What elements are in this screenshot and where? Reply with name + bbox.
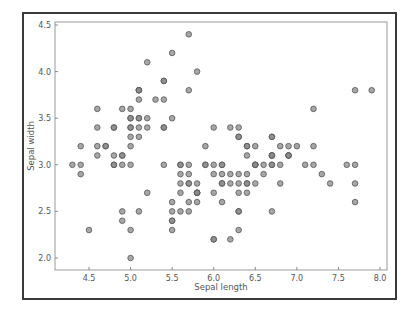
data-point [194, 69, 200, 75]
data-point [178, 190, 184, 196]
data-point [211, 162, 217, 168]
data-point [236, 125, 242, 131]
x-tick-label: 5.5 [166, 274, 179, 283]
data-point [136, 209, 142, 215]
data-point [95, 143, 101, 149]
data-point [369, 87, 375, 93]
data-point [252, 143, 258, 149]
data-point [178, 181, 184, 187]
data-point [277, 143, 283, 149]
data-point [269, 209, 275, 215]
data-point [228, 171, 234, 177]
data-point [186, 171, 192, 177]
data-point [161, 125, 167, 131]
data-point [236, 209, 242, 215]
data-point [311, 162, 317, 168]
data-point [136, 87, 142, 93]
data-point [269, 153, 275, 159]
data-point [136, 97, 142, 103]
data-point [128, 227, 134, 233]
data-point [277, 181, 283, 187]
data-point [144, 190, 150, 196]
y-tick-label: 4.5 [38, 21, 51, 30]
x-tick-label: 6.5 [249, 274, 262, 283]
data-point [352, 181, 358, 187]
data-point [78, 171, 84, 177]
scatter-chart: 4.55.05.56.06.57.07.58.0 2.02.53.03.54.0… [0, 0, 413, 316]
data-point [228, 237, 234, 243]
data-point [178, 209, 184, 215]
data-point [169, 199, 175, 205]
data-point [352, 162, 358, 168]
data-point [128, 143, 134, 149]
data-point [261, 162, 267, 168]
data-point [78, 143, 84, 149]
data-point [219, 199, 225, 205]
data-point [244, 171, 250, 177]
x-tick-label: 5.0 [124, 274, 137, 283]
data-point [95, 153, 101, 159]
data-point [327, 181, 333, 187]
data-point [186, 181, 192, 187]
data-point [161, 162, 167, 168]
data-point [161, 78, 167, 84]
data-point [194, 199, 200, 205]
data-point [169, 227, 175, 233]
data-point [169, 218, 175, 224]
data-point [211, 171, 217, 177]
x-tick-label: 4.5 [83, 274, 96, 283]
y-tick-label: 4.0 [38, 68, 51, 77]
data-point [211, 190, 217, 196]
data-point [128, 106, 134, 112]
data-point [252, 162, 258, 168]
data-point [111, 162, 117, 168]
data-point [286, 153, 292, 159]
x-tick-label: 7.5 [332, 274, 345, 283]
data-point [186, 209, 192, 215]
data-point [111, 125, 117, 131]
data-point [128, 134, 134, 140]
data-point [136, 115, 142, 121]
data-point [219, 162, 225, 168]
y-axis-label: Sepal width [26, 121, 36, 171]
data-point [144, 115, 150, 121]
data-point [136, 134, 142, 140]
data-point [119, 209, 125, 215]
data-point [319, 171, 325, 177]
data-point [236, 134, 242, 140]
data-point [194, 190, 200, 196]
data-point [311, 106, 317, 112]
data-point [302, 162, 308, 168]
data-point [153, 97, 159, 103]
data-point [211, 237, 217, 243]
y-tick-label: 3.0 [38, 161, 51, 170]
data-point [70, 162, 76, 168]
data-point [128, 255, 134, 261]
data-point [228, 125, 234, 131]
data-point [236, 227, 242, 233]
data-point [78, 162, 84, 168]
data-point [95, 106, 101, 112]
data-point [186, 32, 192, 38]
data-point [211, 125, 217, 131]
data-point [352, 199, 358, 205]
x-tick-label: 7.0 [290, 274, 303, 283]
data-point [136, 125, 142, 131]
x-axis: 4.55.05.56.06.57.07.58.0 [83, 267, 387, 283]
data-point [261, 171, 267, 177]
data-point [128, 125, 134, 131]
data-point [236, 171, 242, 177]
x-axis-label: Sepal length [194, 282, 247, 292]
data-point [244, 190, 250, 196]
data-point [344, 162, 350, 168]
data-point [203, 143, 209, 149]
y-tick-label: 2.5 [38, 207, 51, 216]
data-point [119, 162, 125, 168]
data-point [219, 181, 225, 187]
data-point [119, 106, 125, 112]
data-point [169, 115, 175, 121]
data-point [103, 143, 109, 149]
data-point [161, 97, 167, 103]
data-point [228, 181, 234, 187]
data-point [144, 59, 150, 65]
